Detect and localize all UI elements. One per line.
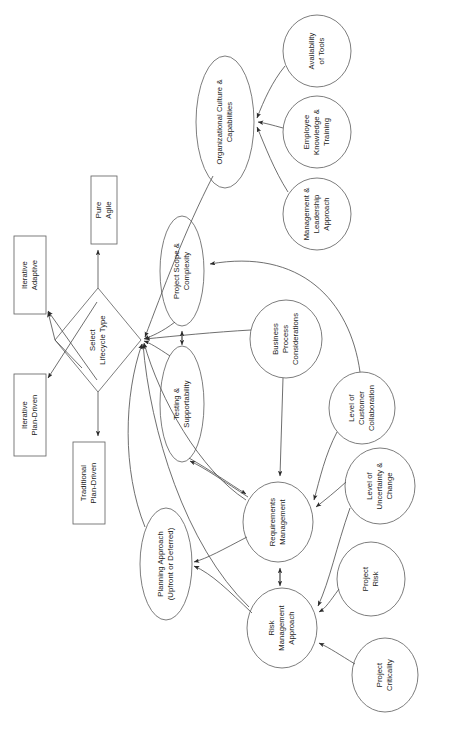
node-shape-organizational-culture[interactable]	[196, 56, 254, 188]
node-shape-requirements-management[interactable]	[243, 482, 313, 562]
node-shape-project-scope[interactable]	[160, 216, 204, 326]
node-shape-iterative-plan-driven[interactable]	[14, 374, 46, 456]
node-shape-availability-of-tools[interactable]	[283, 15, 351, 87]
node-shape-testing-supportability[interactable]	[160, 346, 204, 462]
edge-planning-approach-to-select	[128, 344, 145, 527]
node-shape-uncertainty-change[interactable]	[345, 448, 415, 524]
node-shape-project-criticality[interactable]	[352, 638, 418, 712]
node-shape-select-lifecycle-type[interactable]	[55, 288, 141, 392]
edge-risk-management-to-planning-approach	[194, 566, 252, 613]
node-shape-pure-agile[interactable]	[91, 176, 117, 244]
node-shape-management-leadership[interactable]	[283, 178, 351, 250]
node-shape-employee-knowledge[interactable]	[283, 96, 351, 168]
edge-project-risk-to-risk-management	[319, 589, 339, 612]
node-shape-iterative-adaptive[interactable]	[14, 236, 46, 314]
edge-requirements-to-testing	[190, 461, 248, 497]
node-shape-risk-management-approach[interactable]	[247, 588, 317, 668]
edge-project-criticality-to-risk-management	[319, 643, 355, 664]
node-shape-traditional-plan-driven[interactable]	[73, 442, 105, 524]
edge-testing-to-select	[144, 341, 170, 356]
edge-business-process-to-requirements	[280, 378, 283, 476]
node-shape-project-risk[interactable]	[337, 542, 405, 616]
edge-testing-to-requirements	[189, 458, 246, 494]
node-shape-customer-collaboration[interactable]	[329, 372, 395, 444]
diagram-canvas: Pure Agile Iterative Adaptive Iterative …	[0, 0, 450, 731]
node-shape-planning-approach[interactable]	[140, 508, 192, 620]
edge-uncertainty-to-requirements	[316, 482, 346, 507]
edge-availability-tools-to-org-culture	[257, 66, 285, 118]
node-shape-business-process[interactable]	[250, 300, 322, 378]
edge-employee-knowledge-to-org-culture	[258, 122, 283, 128]
diagram-edges-layer	[0, 0, 450, 731]
edge-requirements-to-planning-approach	[194, 537, 247, 562]
edge-customer-collaboration-to-requirements	[314, 432, 337, 500]
